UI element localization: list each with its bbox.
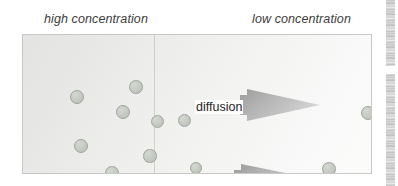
scan-edge-artifact — [386, 0, 395, 186]
molecule — [116, 105, 130, 119]
container-box: diffusion diffusion — [22, 34, 372, 174]
molecule — [143, 149, 156, 162]
molecule — [151, 115, 164, 128]
diffusion-arrow-bottom: diffusion — [189, 163, 320, 174]
low-concentration-label: low concentration — [252, 12, 351, 26]
molecule — [70, 90, 84, 104]
diffusion-label-top: diffusion — [195, 100, 243, 114]
high-concentration-label: high concentration — [44, 12, 148, 26]
molecule — [74, 139, 88, 153]
molecule — [322, 162, 336, 174]
molecule — [105, 166, 119, 174]
diffusion-diagram: high concentration low concentration dif… — [0, 0, 398, 186]
arrow-head-bottom-icon — [234, 163, 320, 174]
arrow-head-top-icon — [240, 88, 320, 126]
molecule — [361, 106, 372, 120]
molecule — [178, 114, 191, 127]
diffusion-arrow-top: diffusion — [195, 88, 320, 126]
scan-edge-artifact-gap — [386, 66, 395, 74]
molecule — [129, 80, 143, 94]
